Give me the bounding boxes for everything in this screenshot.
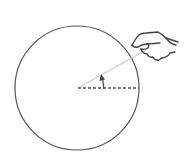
rotation-arrow-icon	[100, 74, 106, 89]
diagram-svg	[0, 0, 186, 154]
hand-grabbing-icon	[132, 32, 178, 60]
circle-rotation-diagram	[0, 0, 186, 154]
